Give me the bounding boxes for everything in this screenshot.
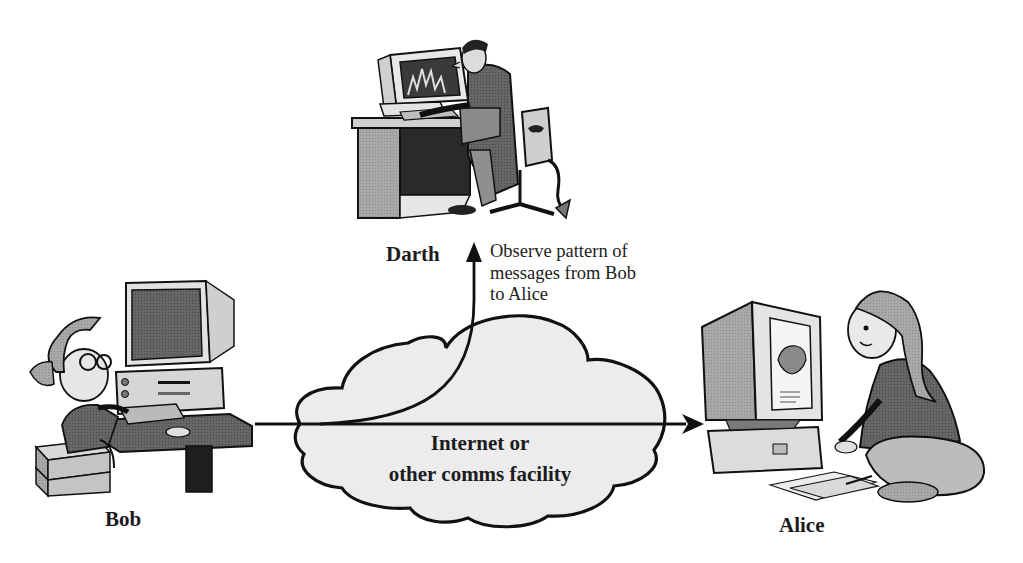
annotation-text: Observe pattern of messages from Bob to … [490, 241, 636, 306]
network-label: Internet or other comms facility [330, 428, 630, 490]
bob-illustration [30, 281, 252, 496]
darth-label: Darth [386, 242, 440, 267]
alice-illustration [702, 291, 984, 502]
bob-label: Bob [105, 507, 141, 532]
darth-illustration [352, 40, 570, 218]
observe-arrowhead [466, 242, 482, 262]
alice-label: Alice [779, 513, 824, 538]
diagram-canvas: Darth Observe pattern of messages from B… [0, 0, 1023, 563]
